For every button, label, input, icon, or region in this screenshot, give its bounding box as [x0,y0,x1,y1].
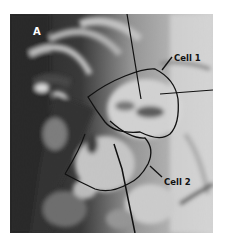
panel-label: A [33,26,41,37]
cell-2-label: Cell 2 [164,177,191,187]
cell-1-label: Cell 1 [174,53,201,63]
micrograph-panel: A Cell 1 Cell 2 [10,14,213,233]
micrograph-image: A Cell 1 Cell 2 [10,14,213,233]
